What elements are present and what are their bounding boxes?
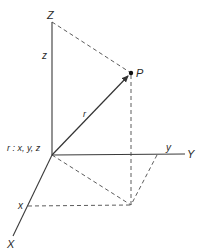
y-axis-label: Y — [187, 148, 195, 160]
y-component-label: y — [165, 142, 172, 153]
y-axis — [52, 154, 185, 155]
x-axis — [13, 155, 52, 236]
z-component-label: z — [41, 50, 47, 61]
z-axis-label: Z — [46, 9, 55, 21]
point-p-dot — [129, 71, 133, 75]
vector-definition-label: r : x, y, z — [7, 143, 41, 153]
x-component-label: x — [17, 200, 24, 211]
vector-r — [52, 76, 128, 155]
dash-x-to-projection — [28, 205, 131, 206]
coordinate-diagram: Z z P r r : x, y, z y Y x X — [0, 0, 203, 252]
x-axis-label: X — [6, 238, 15, 250]
dash-origin-to-projection — [52, 155, 131, 205]
vector-r-label: r — [83, 109, 87, 119]
dash-z-to-p — [52, 22, 131, 73]
point-p-label: P — [136, 67, 144, 79]
dash-y-to-projection — [131, 155, 157, 205]
